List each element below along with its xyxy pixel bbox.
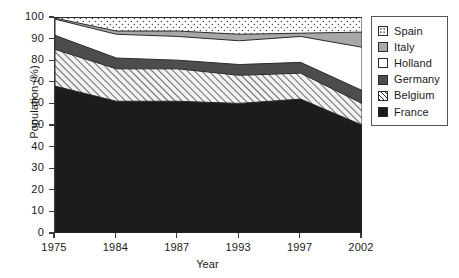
legend-swatch-france <box>378 107 388 117</box>
legend-swatch-italy <box>378 42 388 52</box>
x-tick-label: 1975 <box>29 241 79 253</box>
x-tick-mark <box>360 233 361 238</box>
x-tick-label: 1984 <box>90 241 140 253</box>
chart-canvas: Population (%) 0102030405060708090100 19… <box>0 0 459 278</box>
y-tick-label: 80 <box>10 53 44 65</box>
legend-label: Spain <box>394 26 423 37</box>
chart-legend: SpainItalyHollandGermanyBelgiumFrance <box>371 16 448 126</box>
area-series-france <box>55 86 362 233</box>
x-tick-label: 1987 <box>152 241 202 253</box>
x-axis-title: Year <box>54 258 361 270</box>
y-tick-label: 30 <box>10 161 44 173</box>
y-tick-label: 40 <box>10 140 44 152</box>
y-tick-label: 70 <box>10 75 44 87</box>
y-tick-label: 50 <box>10 118 44 130</box>
legend-item-germany[interactable]: Germany <box>378 72 440 88</box>
stacked-area-series <box>55 17 362 233</box>
legend-swatch-spain <box>378 26 388 36</box>
legend-swatch-germany <box>378 75 388 85</box>
y-tick-label: 0 <box>10 226 44 238</box>
legend-label: Germany <box>394 74 440 85</box>
legend-swatch-holland <box>378 58 388 68</box>
x-tick-mark <box>53 233 54 238</box>
x-tick-mark <box>176 233 177 238</box>
y-tick-label: 20 <box>10 183 44 195</box>
legend-label: Italy <box>394 42 415 53</box>
x-tick-mark <box>115 233 116 238</box>
legend-item-belgium[interactable]: Belgium <box>378 88 440 104</box>
y-tick-label: 60 <box>10 96 44 108</box>
plot-area <box>54 17 361 233</box>
legend-label: Holland <box>394 58 432 69</box>
x-tick-label: 2002 <box>336 241 386 253</box>
legend-label: Belgium <box>394 90 434 101</box>
legend-item-france[interactable]: France <box>378 104 440 120</box>
legend-item-spain[interactable]: Spain <box>378 23 440 39</box>
y-tick-label: 10 <box>10 204 44 216</box>
legend-swatch-belgium <box>378 91 388 101</box>
x-tick-mark <box>238 233 239 238</box>
x-tick-mark <box>299 233 300 238</box>
y-tick-label: 100 <box>10 10 44 22</box>
legend-item-italy[interactable]: Italy <box>378 39 440 55</box>
legend-label: France <box>394 107 429 118</box>
legend-item-holland[interactable]: Holland <box>378 55 440 71</box>
x-tick-label: 1997 <box>275 241 325 253</box>
x-tick-label: 1993 <box>213 241 263 253</box>
y-tick-label: 90 <box>10 32 44 44</box>
